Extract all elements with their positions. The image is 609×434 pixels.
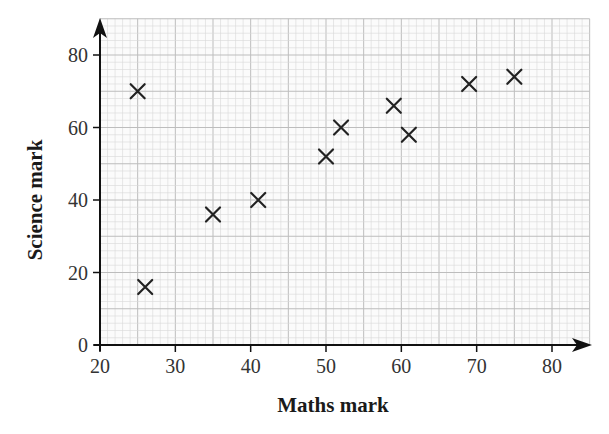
y-tick-label: 20 [68,262,88,284]
grid [100,19,590,345]
x-tick-label: 40 [241,355,261,377]
y-axis-title: Science mark [23,139,47,260]
y-tick-label: 60 [68,117,88,139]
x-tick-label: 30 [165,355,185,377]
x-tick-label: 80 [542,355,562,377]
x-tick-label: 20 [90,355,110,377]
scatter-chart: 20304050607080 020406080 Maths mark Scie… [0,0,609,434]
y-tick-label: 40 [68,189,88,211]
x-tick-label: 50 [316,355,336,377]
x-tick-label: 60 [391,355,411,377]
y-tick-label: 0 [78,334,88,356]
x-tick-label: 70 [467,355,487,377]
x-axis-title: Maths mark [277,393,389,417]
y-tick-label: 80 [68,44,88,66]
